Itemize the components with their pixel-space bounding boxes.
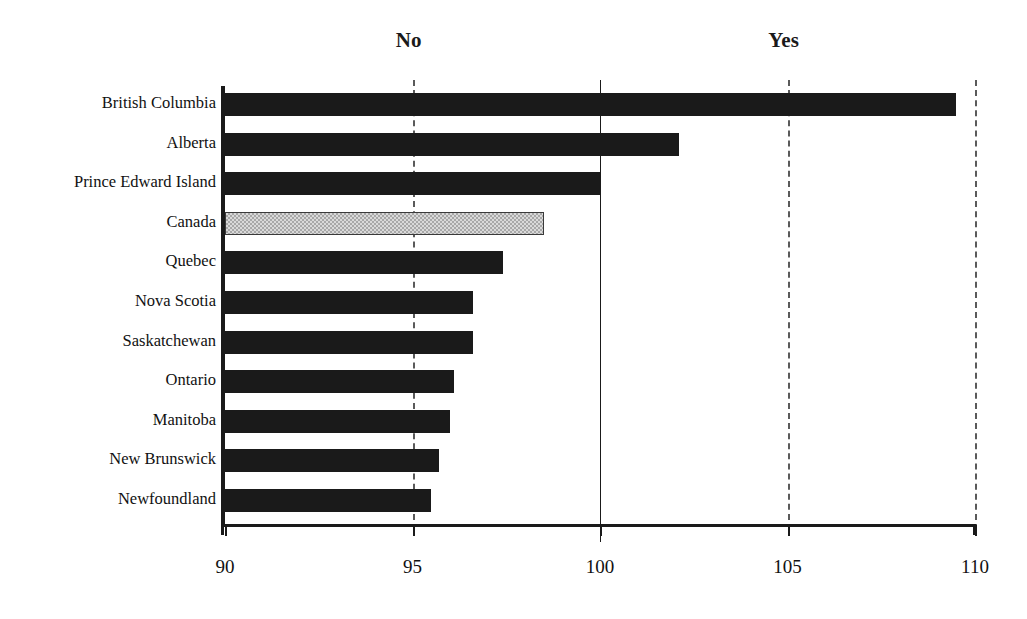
plot-area [225,86,975,524]
category-label-nova-scotia: Nova Scotia [0,281,230,321]
category-label-saskatchewan: Saskatchewan [0,321,230,361]
bar-row [225,324,975,364]
bar-nova-scotia[interactable] [225,291,473,314]
gridline-110 [975,80,977,530]
bar-row [225,363,975,403]
x-tick-90 [225,525,227,536]
category-label-alberta: Alberta [0,123,230,163]
bar-prince-edward-island[interactable] [225,172,600,195]
bar-row [225,86,975,126]
category-axis-labels: British ColumbiaAlbertaPrince Edward Isl… [0,86,216,524]
category-label-quebec: Quebec [0,241,230,281]
bar-row [225,165,975,205]
category-label-british-columbia: British Columbia [0,83,230,123]
bar-quebec[interactable] [225,251,503,274]
bar-new-brunswick[interactable] [225,449,439,472]
x-tick-95 [413,525,415,536]
x-tick-label-110: 110 [961,556,989,578]
bar-newfoundland[interactable] [225,489,431,512]
category-label-newfoundland: Newfoundland [0,479,230,519]
bar-british-columbia[interactable] [225,93,956,116]
bar-row [225,244,975,284]
category-label-manitoba: Manitoba [0,400,230,440]
bar-row [225,403,975,443]
bar-chart: No Yes British ColumbiaAlbertaPrince Edw… [0,0,1027,619]
x-tick-110 [975,525,977,536]
category-label-prince-edward-island: Prince Edward Island [0,162,230,202]
group-label-no: No [396,28,422,53]
x-tick-label-105: 105 [773,556,802,578]
bar-row [225,482,975,522]
bar-ontario[interactable] [225,370,454,393]
bar-row [225,442,975,482]
x-tick-label-100: 100 [586,556,615,578]
group-label-yes: Yes [768,28,799,53]
category-label-new-brunswick: New Brunswick [0,439,230,479]
x-axis-left-cap [221,524,224,535]
category-label-canada: Canada [0,202,230,242]
bar-saskatchewan[interactable] [225,331,473,354]
x-tick-label-90: 90 [216,556,235,578]
x-axis-line [221,524,975,527]
x-axis-tick-labels: 9095100105110 [0,556,1027,586]
category-label-ontario: Ontario [0,360,230,400]
bar-alberta[interactable] [225,133,679,156]
bar-row [225,126,975,166]
x-tick-105 [788,525,790,536]
x-tick-label-95: 95 [403,556,422,578]
bar-manitoba[interactable] [225,410,450,433]
bar-row [225,205,975,245]
x-tick-100 [600,525,602,536]
bar-row [225,284,975,324]
bar-canada[interactable] [225,212,544,235]
